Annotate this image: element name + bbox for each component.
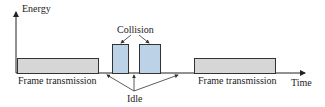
idle-label: Idle — [127, 94, 143, 104]
collision-block-1 — [112, 44, 129, 74]
diagram-lines — [0, 0, 325, 107]
frame-block-left — [17, 58, 99, 74]
energy-time-diagram: Energy Time Frame transmission Frame tra… — [0, 0, 325, 107]
idle-arrow-3 — [134, 75, 178, 91]
frame-right-label: Frame transmission — [198, 76, 277, 86]
frame-left-label: Frame transmission — [18, 76, 97, 86]
collision-block-2 — [139, 44, 161, 74]
collision-arrow-1 — [121, 35, 131, 43]
collision-label: Collision — [117, 25, 154, 35]
idle-arrow-1 — [107, 75, 134, 91]
frame-block-right — [194, 58, 276, 74]
collision-arrow-2 — [139, 35, 149, 43]
y-axis-label: Energy — [22, 4, 51, 14]
x-axis-label: Time — [291, 78, 312, 88]
